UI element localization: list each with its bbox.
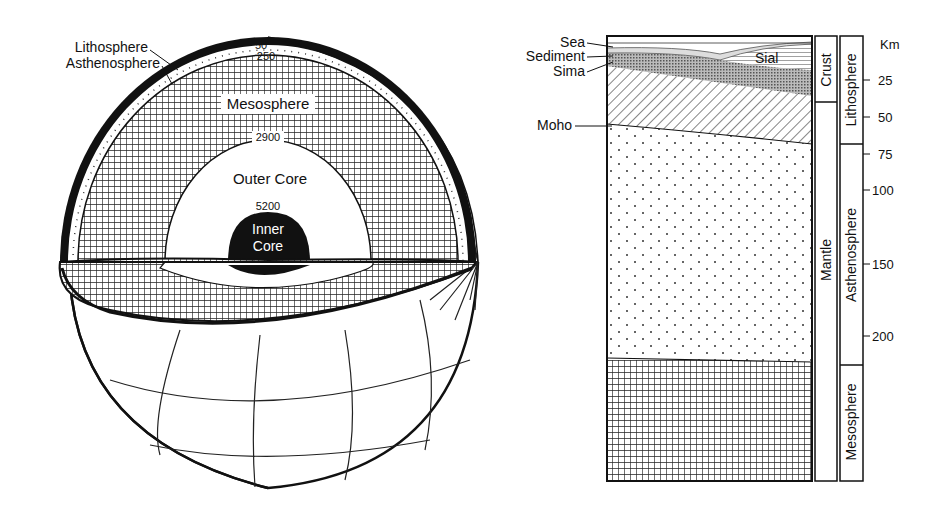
label-sima: Sima [553,63,585,79]
tick-200: 200 [872,329,894,344]
depth-2900: 2900 [256,131,280,143]
globe-cutaway: Lithosphere Asthenosphere 50 250 Mesosph… [60,37,478,488]
tick-150: 150 [872,257,894,272]
crust-mantle-column: Sial Sea Sediment Sima Moho Crust Mantle… [526,34,900,481]
label-mesosphere: Mesosphere [227,95,310,112]
band-lithosphere: Lithosphere [843,53,859,126]
label-sial: Sial [755,50,778,66]
tick-50: 50 [878,110,892,125]
label-moho: Moho [537,117,572,133]
band-mesosphere: Mesosphere [843,383,859,460]
label-inner-core-1: Inner [252,221,284,237]
earth-structure-diagram: Lithosphere Asthenosphere 50 250 Mesosph… [0,0,945,515]
label-lithosphere: Lithosphere [75,39,148,55]
label-asthenosphere: Asthenosphere [66,55,160,71]
label-inner-core-2: Core [253,238,284,254]
label-outer-core: Outer Core [233,170,307,187]
band-crust: Crust [818,53,834,87]
tick-75: 75 [878,147,892,162]
label-sediment: Sediment [526,48,585,64]
depth-5200: 5200 [256,200,280,212]
tick-100: 100 [872,183,894,198]
band-asthenosphere: Asthenosphere [843,208,859,302]
band-mantle: Mantle [818,239,834,281]
tick-25: 25 [878,73,892,88]
depth-250: 250 [257,50,275,62]
scale-unit: Km [880,37,900,52]
